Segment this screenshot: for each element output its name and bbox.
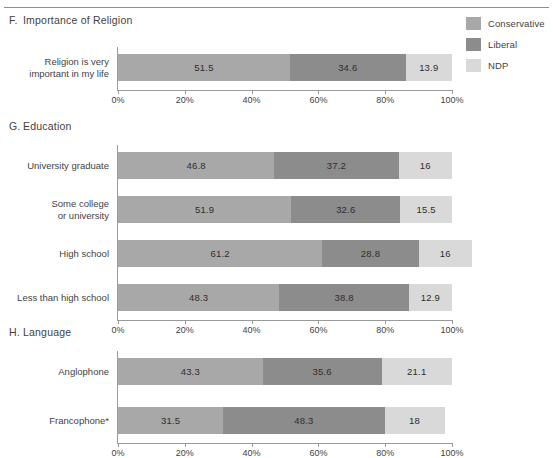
x-axis-tick-mark	[385, 321, 386, 324]
panel-letter: H.	[9, 326, 23, 338]
panel-title-text: Education	[23, 120, 72, 132]
x-axis-tick-mark	[318, 444, 319, 447]
bar-segment-conservative: 43.3	[118, 358, 263, 385]
bar-segment-value: 48.3	[189, 292, 208, 303]
legend-item: Conservative	[466, 14, 552, 32]
bar-segment-value: 28.8	[361, 248, 380, 259]
stacked-bar: 46.837.216	[118, 152, 452, 179]
stacked-bar: 51.534.613.9	[118, 54, 452, 81]
legend-swatch-icon	[466, 17, 481, 30]
bar-segment-ndp: 21.1	[382, 358, 452, 385]
bar-row-label: Francophone*	[0, 415, 109, 427]
stacked-bar: 43.335.621.1	[118, 358, 452, 385]
bar-segment-liberal: 48.3	[223, 407, 384, 434]
x-axis-tick-label: 80%	[376, 448, 394, 458]
bar-row-label: High school	[0, 248, 109, 260]
bar-segment-value: 15.5	[416, 204, 435, 215]
x-axis-tick-mark	[252, 321, 253, 324]
bar-segment-conservative: 31.5	[118, 407, 223, 434]
x-axis-tick-mark	[118, 91, 119, 94]
x-axis-tick-label: 20%	[176, 448, 194, 458]
stacked-bar: 51.932.615.5	[118, 196, 452, 223]
legend-item-label: Conservative	[488, 18, 545, 29]
bar-segment-conservative: 51.9	[118, 196, 291, 223]
bar-segment-value: 51.9	[195, 204, 214, 215]
bar-segment-value: 38.8	[334, 292, 353, 303]
bar-segment-value: 37.2	[327, 160, 346, 171]
x-axis-tick-label: 80%	[376, 95, 394, 105]
bar-row-label: University graduate	[0, 160, 109, 172]
x-axis-tick-mark	[185, 444, 186, 447]
bar-segment-value: 13.9	[419, 62, 438, 73]
bar-row-label: Some college or university	[0, 198, 109, 222]
bar-row: University graduate46.837.216	[118, 152, 452, 179]
bar-segment-ndp: 13.9	[406, 54, 452, 81]
bar-segment-value: 35.6	[312, 366, 331, 377]
bar-segment-liberal: 35.6	[263, 358, 382, 385]
x-axis-tick-mark	[318, 91, 319, 94]
panel-title: H.Language	[9, 326, 71, 338]
panel-title-text: Importance of Religion	[23, 14, 132, 26]
x-axis-tick-label: 0%	[111, 325, 124, 335]
bar-segment-conservative: 46.8	[118, 152, 274, 179]
x-axis-ticks: 0%20%40%60%80%100%	[117, 321, 453, 335]
x-axis-tick-label: 100%	[440, 325, 463, 335]
bar-row: Anglophone43.335.621.1	[118, 358, 452, 385]
legend-item-label: Liberal	[488, 39, 517, 50]
x-axis-tick-mark	[318, 321, 319, 324]
bar-row-label: Anglophone	[0, 366, 109, 378]
legend-swatch-icon	[466, 38, 481, 51]
bar-segment-value: 12.9	[421, 292, 440, 303]
x-axis-tick-label: 0%	[111, 95, 124, 105]
x-axis-tick-label: 80%	[376, 325, 394, 335]
x-axis-tick-mark	[385, 91, 386, 94]
bar-segment-value: 18	[409, 415, 420, 426]
bar-segment-value: 31.5	[161, 415, 180, 426]
bar-segment-ndp: 12.9	[409, 284, 452, 311]
panel-letter: F.	[9, 14, 23, 26]
x-axis-tick-mark	[452, 91, 453, 94]
x-axis-tick-label: 0%	[111, 448, 124, 458]
bar-segment-liberal: 34.6	[290, 54, 406, 81]
bar-row: High school61.228.816	[118, 240, 452, 267]
x-axis-tick-label: 60%	[309, 95, 327, 105]
chart-legend: ConservativeLiberalNDP	[466, 14, 552, 77]
bar-segment-conservative: 48.3	[118, 284, 279, 311]
legend-item-label: NDP	[488, 60, 508, 71]
panel-title: F.Importance of Religion	[9, 14, 132, 26]
top-divider-rule	[4, 7, 549, 8]
x-axis-tick-mark	[385, 444, 386, 447]
bar-row: Less than high school48.338.812.9	[118, 284, 452, 311]
x-axis-tick-label: 60%	[309, 448, 327, 458]
legend-item: NDP	[466, 56, 552, 74]
x-axis-tick-label: 60%	[309, 325, 327, 335]
stacked-bar: 31.548.318	[118, 407, 445, 434]
panel-letter: G.	[9, 120, 23, 132]
bar-segment-value: 51.5	[194, 62, 213, 73]
bar-segment-liberal: 37.2	[274, 152, 398, 179]
bar-segment-conservative: 51.5	[118, 54, 290, 81]
bar-row: Some college or university51.932.615.5	[118, 196, 452, 223]
x-axis-tick-mark	[185, 91, 186, 94]
x-axis-ticks: 0%20%40%60%80%100%	[117, 91, 453, 105]
stacked-bar: 48.338.812.9	[118, 284, 452, 311]
x-axis-tick-mark	[118, 321, 119, 324]
bar-segment-value: 16	[420, 160, 431, 171]
x-axis-tick-label: 20%	[176, 95, 194, 105]
legend-swatch-icon	[466, 59, 481, 72]
bar-segment-value: 16	[440, 248, 451, 259]
x-axis-tick-label: 100%	[440, 448, 463, 458]
bar-row-label: Religion is very important in my life	[0, 56, 109, 80]
x-axis-tick-label: 20%	[176, 325, 194, 335]
bar-segment-value: 61.2	[211, 248, 230, 259]
bar-segment-liberal: 32.6	[291, 196, 400, 223]
x-axis-tick-mark	[118, 444, 119, 447]
bar-segment-value: 48.3	[294, 415, 313, 426]
bar-segment-value: 46.8	[187, 160, 206, 171]
x-axis-tick-label: 100%	[440, 95, 463, 105]
x-axis-ticks: 0%20%40%60%80%100%	[117, 444, 453, 458]
bar-segment-ndp: 18	[385, 407, 445, 434]
bar-segment-liberal: 28.8	[322, 240, 418, 267]
x-axis-tick-mark	[185, 321, 186, 324]
bar-segment-value: 32.6	[336, 204, 355, 215]
